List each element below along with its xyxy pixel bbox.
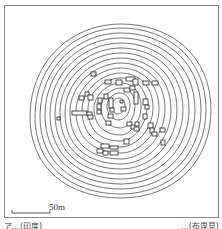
scale-bar [12,210,50,213]
contour-map [0,0,222,229]
scale-label: 50m [49,202,65,212]
caption-right: …(布毘見) [181,220,219,229]
caption-left: ア…(印度) [4,220,42,229]
contour-lines [30,24,211,198]
